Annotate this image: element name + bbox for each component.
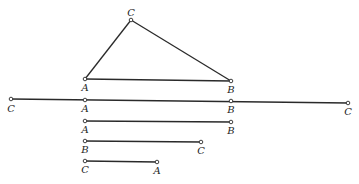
vertex-b-point: [229, 79, 233, 83]
segment-ab-end-label: B: [226, 125, 234, 136]
segment-ca-end-label: A: [152, 165, 160, 176]
triangle-abc: C A B: [80, 7, 234, 95]
segment-ab-end-point: [229, 120, 233, 124]
combined-line: C A B C: [7, 97, 352, 117]
triangle-side-ab: [85, 79, 231, 81]
segment-bc-line: [85, 141, 201, 142]
combined-label-a: A: [80, 103, 88, 114]
triangle-side-ca: [85, 20, 131, 79]
triangle-side-cb: [131, 20, 231, 81]
combined-label-c-left: C: [7, 103, 15, 114]
vertex-a-point: [83, 77, 87, 81]
segment-ca: C A: [81, 159, 160, 176]
segment-ab-line: [85, 121, 231, 122]
combined-point-c-left: [9, 97, 13, 101]
vertex-c-label: C: [127, 7, 135, 18]
geometry-figure: C A B C A B C A B B C C A: [0, 0, 359, 184]
combined-point-c-right: [346, 101, 350, 105]
vertex-b-label: B: [226, 84, 234, 95]
segment-ca-line: [85, 161, 157, 162]
segment-bc-start-label: B: [80, 144, 88, 155]
segment-ab: A B: [80, 119, 234, 136]
vertex-a-label: A: [80, 82, 88, 93]
vertex-c-point: [129, 18, 133, 22]
segment-ca-start-label: C: [81, 164, 89, 175]
segment-ca-start-point: [83, 159, 87, 163]
combined-point-a: [83, 98, 87, 102]
combined-line-segment: [11, 99, 348, 103]
segment-bc-start-point: [83, 139, 87, 143]
segment-ab-start-label: A: [80, 124, 88, 135]
segment-bc: B C: [80, 139, 205, 156]
combined-label-c-right: C: [344, 106, 352, 117]
segment-ab-start-point: [83, 119, 87, 123]
combined-point-b: [229, 99, 233, 103]
combined-label-b: B: [226, 104, 234, 115]
segment-bc-end-label: C: [197, 145, 205, 156]
segment-bc-end-point: [199, 140, 203, 144]
segment-ca-end-point: [155, 160, 159, 164]
